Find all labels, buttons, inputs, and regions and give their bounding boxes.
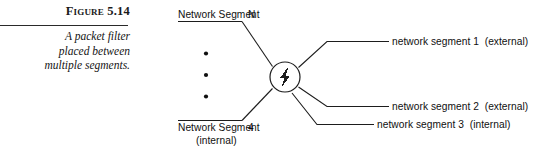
right-segment-2-connector [299,87,390,107]
right-segment-3-label: network segment 3 (internal) [377,119,510,130]
right-segment-1-name: network segment 1 [392,36,479,47]
right-segment-3-name: network segment 3 [377,119,464,130]
segment-4-index: 4 [248,122,254,133]
segment-4-qualifier: (internal) [196,135,237,146]
ellipsis-dot-2 [204,73,208,77]
right-segment-3-connector [292,93,374,125]
segment-n-connector [242,22,273,67]
diagram-line-art [0,0,557,160]
right-segment-2-qualifier: (external) [485,101,529,112]
right-segment-3-qualifier: (internal) [470,119,511,130]
segment-4-connector [242,89,273,121]
right-segment-2-label: network segment 2 (external) [392,101,528,112]
ellipsis-dot-1 [204,51,208,55]
ellipsis-dot-3 [204,94,208,98]
figure-container: Figure 5.14 A packet filter placed betwe… [0,0,557,160]
right-segment-2-name: network segment 2 [392,101,479,112]
right-segment-1-qualifier: (external) [485,36,529,47]
right-segment-1-label: network segment 1 (external) [392,36,528,47]
segment-n-index: N [248,9,255,20]
right-segment-1-connector [299,42,390,68]
